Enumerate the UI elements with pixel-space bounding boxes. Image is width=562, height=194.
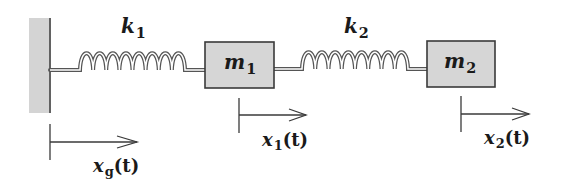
- arrow-x1: [239, 98, 306, 133]
- spring-k1: [50, 53, 205, 70]
- spring-mass-diagram: k1 k2 m1 m2 xg(t) x1(t) x2(t): [0, 0, 562, 194]
- ground-wall: [29, 18, 49, 113]
- spring-k1-label: k1: [121, 16, 146, 36]
- spring-k2: [274, 52, 427, 69]
- spring-k2-label: k2: [344, 16, 369, 36]
- mass-m2-label: m2: [444, 51, 476, 71]
- diagram-canvas: [0, 0, 562, 194]
- mass-m1-label: m1: [224, 52, 256, 72]
- displacement-xg-label: xg(t): [93, 157, 139, 175]
- displacement-x1-label: x1(t): [262, 131, 308, 149]
- displacement-x2-label: x2(t): [484, 129, 530, 147]
